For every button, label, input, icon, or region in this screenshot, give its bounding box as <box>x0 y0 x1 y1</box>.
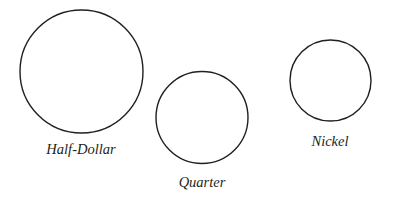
coin-label-quarter: Quarter <box>179 174 226 190</box>
coin-label-nickel: Nickel <box>310 133 348 149</box>
coin-diagram-canvas: Half-Dollar Quarter Nickel <box>0 0 396 198</box>
figure-background <box>0 0 396 198</box>
coin-label-half-dollar: Half-Dollar <box>45 141 116 157</box>
coin-size-figure: Half-Dollar Quarter Nickel <box>0 0 396 198</box>
